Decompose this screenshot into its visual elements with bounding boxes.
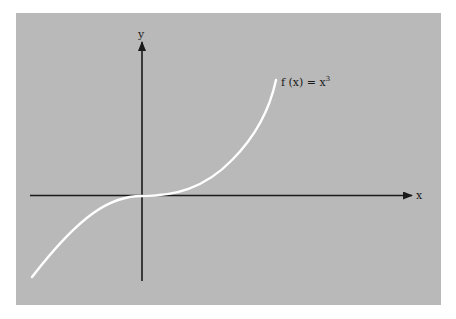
y-axis-label: y [137, 28, 145, 41]
cubic-graph: y x f (x) = x3 [0, 0, 456, 319]
function-label-exponent: 3 [326, 75, 330, 83]
x-axis-label: x [416, 189, 423, 202]
function-label: f (x) = x3 [281, 75, 330, 89]
cubic-curve [32, 80, 276, 277]
function-label-text: f (x) = x [281, 76, 327, 89]
